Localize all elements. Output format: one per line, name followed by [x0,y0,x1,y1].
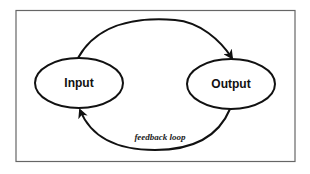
output-label: Output [211,77,250,91]
node-input: Input [35,58,123,108]
input-label: Input [64,76,93,90]
feedback-loop-diagram: Input Output feedback loop [0,0,310,174]
node-output: Output [187,59,275,109]
feedback-loop-label: feedback loop [134,132,186,142]
